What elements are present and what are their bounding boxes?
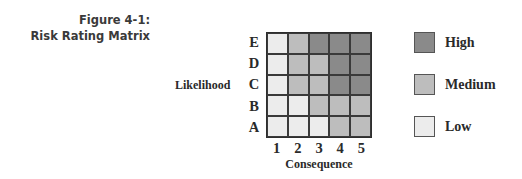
col-label-2: 2: [287, 138, 308, 158]
y-axis-label: Likelihood: [175, 78, 230, 93]
matrix-cell-e4: [329, 33, 350, 54]
matrix-cell-c1: [267, 75, 288, 96]
matrix-cell-d5: [350, 54, 371, 75]
matrix-cell-b4: [329, 95, 350, 116]
matrix-cell-e1: [267, 33, 288, 54]
matrix-cell-a3: [309, 116, 330, 137]
matrix-cell-a1: [267, 116, 288, 137]
figure-number: Figure 4-1:: [0, 12, 150, 28]
figure-caption: Figure 4-1: Risk Rating Matrix: [0, 12, 150, 44]
matrix-cell-e5: [350, 33, 371, 54]
matrix-cell-a5: [350, 116, 371, 137]
row-label-e: E: [246, 32, 262, 53]
col-label-4: 4: [330, 138, 351, 158]
matrix-cell-a2: [288, 116, 309, 137]
matrix-cell-b3: [309, 95, 330, 116]
row-label-a: A: [246, 117, 262, 138]
column-labels: 1 2 3 4 5: [266, 138, 372, 158]
matrix-cell-d2: [288, 54, 309, 75]
row-label-b: B: [246, 96, 262, 117]
matrix-cell-b5: [350, 95, 371, 116]
col-label-3: 3: [308, 138, 329, 158]
legend: High Medium Low: [414, 32, 496, 158]
matrix-cell-b2: [288, 95, 309, 116]
matrix-cell-d3: [309, 54, 330, 75]
matrix-cell-c5: [350, 75, 371, 96]
row-label-d: D: [246, 53, 262, 74]
legend-label-high: High: [445, 35, 475, 51]
matrix-cell-b1: [267, 95, 288, 116]
legend-label-medium: Medium: [445, 77, 496, 93]
legend-item-high: High: [414, 32, 496, 53]
col-label-1: 1: [266, 138, 287, 158]
matrix-cell-c2: [288, 75, 309, 96]
x-axis-label: Consequence: [266, 157, 372, 172]
matrix-cell-e2: [288, 33, 309, 54]
matrix-cell-e3: [309, 33, 330, 54]
legend-item-medium: Medium: [414, 74, 496, 95]
legend-item-low: Low: [414, 116, 496, 137]
risk-matrix-grid: [266, 32, 372, 138]
legend-label-low: Low: [445, 119, 471, 135]
legend-swatch-high: [414, 32, 435, 53]
legend-swatch-medium: [414, 74, 435, 95]
matrix-cell-c4: [329, 75, 350, 96]
col-label-5: 5: [351, 138, 372, 158]
row-label-c: C: [246, 74, 262, 95]
figure-title: Risk Rating Matrix: [0, 28, 150, 44]
matrix-cell-a4: [329, 116, 350, 137]
matrix-cell-d1: [267, 54, 288, 75]
row-labels: E D C B A: [246, 32, 262, 138]
legend-swatch-low: [414, 116, 435, 137]
matrix-cell-d4: [329, 54, 350, 75]
matrix-cell-c3: [309, 75, 330, 96]
